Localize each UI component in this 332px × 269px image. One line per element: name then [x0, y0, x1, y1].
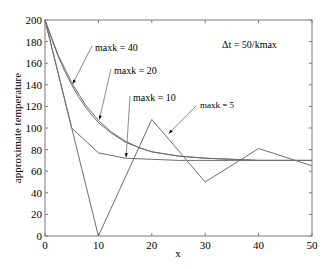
x-tick-label: 10	[93, 239, 105, 251]
x-tick-label: 30	[200, 239, 212, 251]
x-axis-label: x	[175, 247, 181, 259]
y-tick-label: 40	[31, 187, 43, 199]
axes-box	[45, 20, 312, 236]
annotation-delta-t: Δt = 50/kmax	[222, 39, 277, 50]
arrowhead-icon	[73, 80, 76, 84]
y-tick-label: 80	[31, 144, 43, 156]
x-tick-label: 40	[253, 239, 265, 251]
x-tick-label: 0	[42, 239, 48, 251]
plot-frame	[45, 20, 312, 236]
annotation-arrow	[73, 46, 92, 84]
annotation-maxk-10: maxk = 10	[133, 92, 176, 103]
y-tick-label: 200	[26, 14, 43, 26]
y-tick-label: 140	[26, 79, 43, 91]
annotation-arrow	[126, 96, 130, 157]
y-tick-label: 100	[26, 122, 43, 134]
y-tick-label: 60	[31, 165, 43, 177]
series-line	[45, 20, 312, 236]
annotation-maxk-5: maxk = 5	[200, 100, 235, 110]
temperature-chart: 01020304050020406080100120140160180200 m…	[0, 0, 332, 269]
annotation-maxk-20: maxk = 20	[114, 65, 157, 76]
y-tick-label: 160	[26, 57, 43, 69]
annotation-maxk-40: maxk = 40	[95, 42, 138, 53]
annotation-arrow	[169, 106, 196, 133]
x-tick-label: 50	[307, 239, 319, 251]
annotation-arrow	[99, 69, 111, 119]
y-tick-label: 120	[26, 100, 43, 112]
data-series	[45, 20, 312, 236]
y-axis-label: approximate temperature	[11, 73, 23, 183]
y-tick-label: 0	[37, 230, 43, 242]
arrowhead-icon	[125, 153, 128, 157]
y-tick-label: 180	[26, 36, 43, 48]
y-tick-label: 20	[31, 208, 43, 220]
x-tick-label: 20	[146, 239, 158, 251]
